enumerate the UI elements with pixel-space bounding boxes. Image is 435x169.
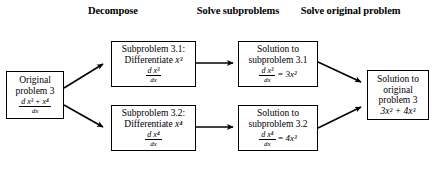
- node-solution-31-fraction: d x³ dx: [259, 66, 275, 84]
- node-solution-original-line1: Solution to: [377, 74, 419, 85]
- node-subproblem-32-numerator: d x⁴: [145, 130, 161, 140]
- node-solution-original-line2: original: [383, 85, 413, 96]
- header-decompose-label: Decompose: [88, 5, 138, 16]
- node-subproblem-31-numerator: d x³: [146, 66, 162, 76]
- node-solution-32-denominator: dx: [262, 140, 273, 148]
- node-subproblem-32-fraction: d x⁴ dx: [145, 130, 161, 148]
- node-original-problem-denominator: dx: [30, 107, 41, 115]
- node-solution-32-numerator: d x⁴: [259, 130, 275, 140]
- edge-solution-31-to-solution-original: [318, 62, 361, 82]
- node-solution-31-result: 3x²: [285, 69, 296, 80]
- node-subproblem-32[interactable]: Subproblem 3.2: Differentiate x⁴ d x⁴ dx: [111, 105, 196, 151]
- edge-original-to-subproblem-32: [64, 105, 103, 127]
- node-solution-32-line1: Solution to: [257, 108, 299, 119]
- node-subproblem-31-denominator: dx: [148, 76, 159, 84]
- node-subproblem-32-denominator: dx: [148, 140, 159, 148]
- edge-solution-32-to-solution-original: [318, 107, 361, 128]
- header-solve-subproblems-line2: subproblems: [223, 5, 279, 16]
- node-solution-subproblem-32[interactable]: Solution to subproblem 3.2 d x⁴ dx = 4x³: [238, 105, 318, 151]
- node-original-problem-line2: problem 3: [16, 86, 55, 97]
- header-solve-original-line2: problem: [363, 5, 400, 16]
- header-solve-original: Solve original problem: [288, 5, 413, 17]
- node-solution-subproblem-31[interactable]: Solution to subproblem 3.1 d x³ dx = 3x²: [238, 41, 318, 87]
- node-solution-31-numerator: d x³: [259, 66, 275, 76]
- node-solution-31-equation: d x³ dx = 3x²: [259, 65, 296, 84]
- node-original-problem[interactable]: Original problem 3 d x³ + x⁴ dx: [6, 71, 64, 119]
- node-solution-32-line2: subproblem 3.2: [248, 119, 307, 130]
- header-decompose: Decompose: [58, 5, 168, 17]
- node-original-problem-fraction: d x³ + x⁴ dx: [19, 97, 51, 115]
- edge-original-to-subproblem-31: [64, 64, 103, 88]
- node-subproblem-31[interactable]: Subproblem 3.1: Differentiate x³ d x³ dx: [111, 41, 196, 87]
- node-solution-original-line3: problem 3: [379, 95, 418, 106]
- node-solution-31-line2: subproblem 3.1: [248, 55, 307, 66]
- node-subproblem-32-line1: Subproblem 3.2:: [122, 108, 185, 119]
- header-solve-subproblems-line1: Solve: [197, 5, 220, 16]
- node-subproblem-31-line1: Subproblem 3.1:: [122, 44, 185, 55]
- node-solution-32-result: 4x³: [286, 133, 297, 144]
- node-solution-original-result: 3x² + 4x³: [381, 106, 416, 117]
- node-subproblem-31-line2: Differentiate x³: [125, 55, 183, 66]
- node-solution-32-equation: d x⁴ dx = 4x³: [259, 129, 297, 148]
- diagram-canvas: Decompose Solve subproblems Solve origin…: [0, 0, 435, 169]
- header-solve-original-line1: Solve original: [301, 5, 361, 16]
- node-solution-31-line1: Solution to: [257, 44, 299, 55]
- node-subproblem-32-line2: Differentiate x⁴: [124, 119, 182, 130]
- header-solve-subproblems: Solve subproblems: [186, 5, 290, 17]
- node-original-problem-line1: Original: [19, 75, 51, 86]
- node-subproblem-31-fraction: d x³ dx: [146, 66, 162, 84]
- node-solution-32-equals: =: [278, 133, 284, 144]
- node-solution-original-problem[interactable]: Solution to original problem 3 3x² + 4x³: [367, 70, 429, 120]
- node-solution-32-fraction: d x⁴ dx: [259, 130, 275, 148]
- node-solution-31-denominator: dx: [262, 76, 273, 84]
- node-original-problem-numerator: d x³ + x⁴: [19, 97, 51, 107]
- node-solution-31-equals: =: [277, 69, 283, 80]
